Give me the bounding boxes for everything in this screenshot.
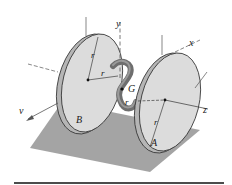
- hub-a: [164, 99, 167, 102]
- label-b: B: [76, 114, 82, 125]
- velocity-arrowhead: [26, 115, 34, 121]
- label-y: y: [115, 18, 121, 29]
- hub-b: [87, 79, 90, 82]
- label-g: G: [128, 83, 135, 94]
- center-of-mass-point: [120, 87, 123, 90]
- label-v: v: [19, 105, 24, 116]
- label-r-b-horizontal: r: [101, 68, 105, 78]
- label-z: z: [202, 104, 207, 115]
- axis-x: [175, 40, 200, 52]
- label-r-a-horizontal: r: [125, 97, 129, 107]
- axis-left-hub: [28, 64, 58, 72]
- label-x: x: [188, 37, 194, 48]
- dynamics-diagram: y x z v G B A r r r r: [0, 0, 232, 185]
- label-a: A: [150, 137, 158, 148]
- label-r-b-vertical: r: [91, 50, 95, 60]
- label-r-a-vertical: r: [154, 117, 158, 127]
